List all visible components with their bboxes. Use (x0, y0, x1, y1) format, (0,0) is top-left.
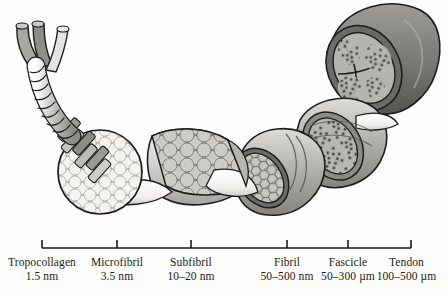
level-name-subfibril: Subfibril (149, 256, 233, 270)
level-size-microfibril: 3.5 nm (75, 270, 159, 284)
scale-label-tendon: Tendon 100–500 µm (365, 256, 448, 283)
scale-label-subfibril: Subfibril 10–20 nm (149, 256, 233, 283)
scale-ticks (42, 240, 411, 248)
level-name-tropocollagen: Tropocollagen (0, 256, 84, 270)
figure-root: Tropocollagen 1.5 nm Microfibril 3.5 nm … (0, 0, 448, 296)
level-name-tendon: Tendon (365, 256, 448, 270)
tendon-hierarchy-diagram (0, 0, 448, 296)
level-name-microfibril: Microfibril (75, 256, 159, 270)
level-size-tropocollagen: 1.5 nm (0, 270, 84, 284)
scale-label-microfibril: Microfibril 3.5 nm (75, 256, 159, 283)
level-size-subfibril: 10–20 nm (149, 270, 233, 284)
level-size-tendon: 100–500 µm (365, 270, 448, 284)
scale-label-tropocollagen: Tropocollagen 1.5 nm (0, 256, 84, 283)
scale-bar (42, 240, 411, 248)
level-tropocollagen-illustration (16, 21, 77, 138)
